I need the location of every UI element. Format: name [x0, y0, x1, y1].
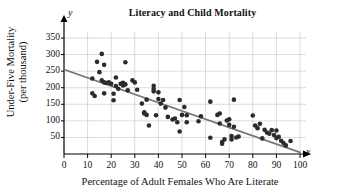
x-tick-label: 70 [219, 160, 239, 170]
x-tick-label: 20 [101, 160, 121, 170]
data-point [182, 105, 187, 110]
data-point [95, 60, 100, 65]
data-point [92, 94, 97, 99]
data-point-group [90, 52, 293, 148]
data-point [161, 98, 166, 103]
data-point [180, 113, 185, 118]
data-point [144, 97, 149, 102]
data-point [255, 126, 260, 131]
data-point [258, 122, 263, 127]
data-point [177, 98, 182, 103]
data-point [123, 60, 128, 65]
data-point [184, 120, 189, 125]
data-point [147, 123, 152, 128]
y-axis-symbol: y [68, 7, 72, 18]
data-point [274, 128, 279, 133]
data-point [208, 99, 213, 104]
data-point [236, 134, 241, 139]
x-tick-label: 80 [243, 160, 263, 170]
data-point [227, 117, 232, 122]
data-point [114, 75, 119, 80]
x-tick-label: 50 [172, 160, 192, 170]
x-axis-symbol: x [306, 146, 310, 157]
data-point [177, 129, 182, 134]
data-point [217, 121, 222, 126]
data-point [151, 89, 156, 94]
data-point [163, 105, 168, 110]
data-point [284, 143, 289, 148]
data-point [140, 101, 145, 106]
x-tick-label: 10 [78, 160, 98, 170]
data-point [116, 86, 121, 91]
data-point [102, 91, 107, 96]
data-point [217, 111, 222, 116]
data-point [99, 52, 104, 57]
x-tick-label: 40 [148, 160, 168, 170]
x-tick-label: 0 [54, 160, 74, 170]
data-point [208, 135, 213, 140]
data-point [251, 113, 256, 118]
data-point [109, 81, 114, 86]
chart-figure: Literacy and Child Mortality Under-Five … [0, 0, 345, 195]
x-tick-label: 30 [125, 160, 145, 170]
data-point [184, 113, 189, 118]
y-tick-label: 250 [34, 65, 60, 75]
y-tick-label: 200 [34, 82, 60, 92]
data-point [288, 139, 293, 144]
x-tick-label: 60 [196, 160, 216, 170]
data-point [227, 123, 232, 128]
data-point [111, 91, 116, 96]
data-point [123, 82, 128, 87]
data-point [260, 136, 265, 141]
data-point [229, 137, 234, 142]
x-tick-label: 100 [290, 160, 310, 170]
y-tick-label: 50 [34, 131, 60, 141]
data-point [269, 128, 274, 133]
y-tick-label: 100 [34, 115, 60, 125]
data-point [196, 119, 201, 124]
data-point [102, 63, 107, 68]
data-point [156, 97, 161, 102]
data-point [125, 88, 130, 93]
y-tick-label: 300 [34, 49, 60, 59]
data-point [276, 134, 281, 139]
y-tick-label: 150 [34, 98, 60, 108]
data-point [90, 76, 95, 81]
data-point [97, 70, 102, 75]
data-point [156, 90, 161, 95]
data-point [135, 87, 140, 92]
y-axis-arrowhead [61, 15, 68, 22]
data-point [232, 97, 237, 102]
data-point [222, 137, 227, 142]
data-point [111, 98, 116, 103]
x-tick-label: 90 [266, 160, 286, 170]
y-tick-label: 350 [34, 32, 60, 42]
data-point [154, 113, 159, 118]
data-point [144, 113, 149, 118]
data-point [133, 80, 138, 85]
data-point [220, 141, 225, 146]
data-point [166, 115, 171, 120]
data-point [175, 120, 180, 125]
data-point [199, 114, 204, 119]
data-point [232, 125, 237, 130]
